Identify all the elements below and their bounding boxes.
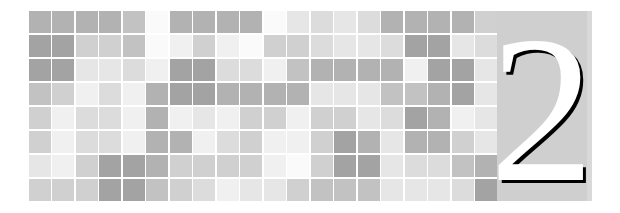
mosaic-tile [29, 155, 51, 177]
mosaic-tile [358, 59, 380, 81]
mosaic-tile [52, 11, 74, 33]
mosaic-tile [76, 83, 98, 105]
mosaic-tile [452, 179, 474, 201]
mosaic-tile [405, 107, 427, 129]
mosaic-tile [146, 131, 168, 153]
mosaic-tile [99, 83, 121, 105]
mosaic-tile [76, 11, 98, 33]
mosaic-tile [381, 35, 403, 57]
mosaic-tile [76, 155, 98, 177]
mosaic-tile [123, 83, 145, 105]
mosaic-tile [123, 179, 145, 201]
mosaic-tile [452, 59, 474, 81]
mosaic-tile [475, 83, 497, 105]
mosaic-tile [358, 155, 380, 177]
mosaic-tile [475, 11, 497, 33]
mosaic-tile [405, 155, 427, 177]
mosaic-tile [52, 155, 74, 177]
mosaic-tile [123, 11, 145, 33]
mosaic-tile [240, 179, 262, 201]
mosaic-tile [428, 35, 450, 57]
mosaic-tile [475, 179, 497, 201]
chapter-number-panel: 2 2 [497, 11, 592, 201]
mosaic-tile [240, 35, 262, 57]
mosaic-tile [311, 59, 333, 81]
mosaic-tile [99, 11, 121, 33]
mosaic-tile [170, 131, 192, 153]
mosaic-tile [76, 179, 98, 201]
mosaic-tile [334, 35, 356, 57]
mosaic-tile [475, 35, 497, 57]
mosaic-tile [264, 107, 286, 129]
mosaic-tile [381, 11, 403, 33]
decorative-mosaic-band [29, 11, 497, 201]
mosaic-tile [264, 131, 286, 153]
mosaic-tile [405, 83, 427, 105]
mosaic-tile [123, 107, 145, 129]
mosaic-tile [170, 35, 192, 57]
mosaic-tile [405, 35, 427, 57]
mosaic-tile [428, 155, 450, 177]
mosaic-tile [405, 11, 427, 33]
mosaic-tile [405, 59, 427, 81]
mosaic-tile [240, 11, 262, 33]
mosaic-tile [52, 59, 74, 81]
mosaic-tile [358, 35, 380, 57]
mosaic-tile [358, 11, 380, 33]
mosaic-tile [405, 179, 427, 201]
mosaic-tile [240, 59, 262, 81]
mosaic-tile [193, 83, 215, 105]
mosaic-tile [334, 59, 356, 81]
mosaic-tile [146, 179, 168, 201]
mosaic-tile [452, 35, 474, 57]
mosaic-tile [240, 107, 262, 129]
mosaic-tile [217, 131, 239, 153]
mosaic-tile [217, 35, 239, 57]
mosaic-tile [475, 59, 497, 81]
mosaic-tile [146, 83, 168, 105]
mosaic-tile [146, 59, 168, 81]
mosaic-tile [264, 83, 286, 105]
mosaic-tile [146, 155, 168, 177]
mosaic-tile [170, 59, 192, 81]
mosaic-tile [123, 131, 145, 153]
mosaic-tile [381, 107, 403, 129]
mosaic-tile [193, 179, 215, 201]
mosaic-tile [264, 155, 286, 177]
mosaic-tile [428, 179, 450, 201]
mosaic-tile [475, 107, 497, 129]
mosaic-tile [170, 83, 192, 105]
mosaic-tile [193, 35, 215, 57]
mosaic-tile [428, 83, 450, 105]
mosaic-tile [381, 59, 403, 81]
mosaic-tile [240, 155, 262, 177]
mosaic-tile [146, 107, 168, 129]
mosaic-tile [29, 35, 51, 57]
mosaic-tile [170, 179, 192, 201]
mosaic-tile [381, 179, 403, 201]
mosaic-tile [358, 107, 380, 129]
mosaic-tile [428, 59, 450, 81]
mosaic-tile [170, 11, 192, 33]
mosaic-tile [99, 131, 121, 153]
mosaic-tile [475, 155, 497, 177]
mosaic-tile [311, 83, 333, 105]
mosaic-tile [29, 11, 51, 33]
mosaic-tile [193, 107, 215, 129]
mosaic-tile [29, 179, 51, 201]
mosaic-tile [99, 107, 121, 129]
mosaic-tile [311, 107, 333, 129]
mosaic-tile [123, 59, 145, 81]
mosaic-tile [311, 179, 333, 201]
mosaic-tile [428, 11, 450, 33]
mosaic-tile [217, 59, 239, 81]
mosaic-tile [52, 107, 74, 129]
mosaic-tile [76, 59, 98, 81]
mosaic-tile [452, 83, 474, 105]
mosaic-tile [311, 35, 333, 57]
chapter-number: 2 2 [497, 11, 592, 201]
mosaic-tile [381, 155, 403, 177]
mosaic-tile [52, 35, 74, 57]
mosaic-tile [123, 35, 145, 57]
mosaic-tile [452, 11, 474, 33]
